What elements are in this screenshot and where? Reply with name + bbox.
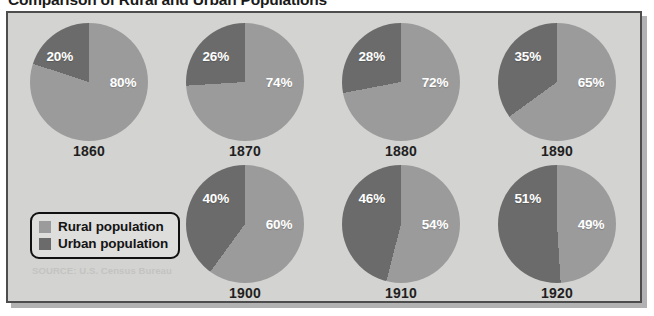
pie-year-label: 1900 bbox=[170, 285, 320, 301]
pie-chart: 20% 80% bbox=[30, 23, 148, 141]
rural-swatch-icon bbox=[39, 221, 51, 233]
legend-item-rural: Rural population bbox=[39, 218, 168, 235]
pie-urban-label: 28% bbox=[359, 49, 385, 64]
chart-panel: 20% 80% 1860 26% 74% 1870 28% 72% 1880 bbox=[6, 11, 642, 303]
legend-label-rural: Rural population bbox=[58, 219, 164, 234]
pie-urban-label: 35% bbox=[515, 49, 541, 64]
page-title: Comparison of Rural and Urban Population… bbox=[8, 0, 327, 9]
pie-rural-label: 49% bbox=[578, 217, 604, 232]
legend-item-urban: Urban population bbox=[39, 235, 168, 252]
pie-year-label: 1920 bbox=[482, 285, 632, 301]
pie-year-label: 1890 bbox=[482, 143, 632, 159]
pie-year-label: 1880 bbox=[326, 143, 476, 159]
pie-rural-label: 80% bbox=[110, 75, 136, 90]
pie-urban-label: 46% bbox=[359, 191, 385, 206]
pie-rural-label: 60% bbox=[266, 217, 292, 232]
pie-chart-cell: 40% 60% 1900 bbox=[170, 165, 320, 301]
urban-swatch-icon bbox=[39, 238, 51, 250]
pie-year-label: 1910 bbox=[326, 285, 476, 301]
pie-chart: 46% 54% bbox=[342, 165, 460, 283]
source-note: SOURCE: U.S. Census Bureau bbox=[32, 265, 172, 276]
pie-chart: 51% 49% bbox=[498, 165, 616, 283]
pie-chart-cell: 46% 54% 1910 bbox=[326, 165, 476, 301]
pie-rural-label: 74% bbox=[266, 75, 292, 90]
pie-year-label: 1870 bbox=[170, 143, 320, 159]
pie-chart: 28% 72% bbox=[342, 23, 460, 141]
chart-panel-inner: 20% 80% 1860 26% 74% 1870 28% 72% 1880 bbox=[8, 13, 640, 301]
pie-urban-label: 26% bbox=[203, 49, 229, 64]
legend: Rural population Urban population bbox=[30, 212, 180, 259]
pie-urban-label: 51% bbox=[515, 191, 541, 206]
pie-chart-cell: 20% 80% 1860 bbox=[14, 23, 164, 159]
pie-chart: 40% 60% bbox=[186, 165, 304, 283]
pie-chart-cell: 26% 74% 1870 bbox=[170, 23, 320, 159]
pie-rural-label: 72% bbox=[422, 75, 448, 90]
pie-chart: 35% 65% bbox=[498, 23, 616, 141]
pie-chart: 26% 74% bbox=[186, 23, 304, 141]
pie-year-label: 1860 bbox=[14, 143, 164, 159]
legend-label-urban: Urban population bbox=[58, 236, 168, 251]
pie-chart-cell: 51% 49% 1920 bbox=[482, 165, 632, 301]
pie-rural-label: 54% bbox=[422, 217, 448, 232]
pie-urban-label: 40% bbox=[203, 191, 229, 206]
pie-chart-cell: 28% 72% 1880 bbox=[326, 23, 476, 159]
pie-chart-cell: 35% 65% 1890 bbox=[482, 23, 632, 159]
pie-rural-label: 65% bbox=[578, 75, 604, 90]
pie-urban-label: 20% bbox=[47, 49, 73, 64]
